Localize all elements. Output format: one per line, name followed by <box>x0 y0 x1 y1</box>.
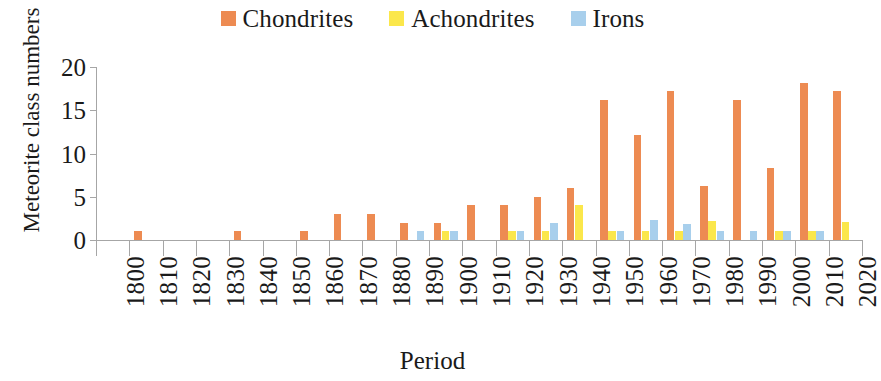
bar <box>833 91 841 240</box>
y-tick-label: 15 <box>61 98 86 123</box>
bar <box>775 231 783 240</box>
x-tick-label: 1890 <box>422 256 448 342</box>
bar-group <box>129 67 162 240</box>
x-tick-label: 1950 <box>622 256 648 342</box>
bar-group <box>429 67 462 240</box>
x-tick-label: 1960 <box>656 256 682 342</box>
bar-group <box>795 67 828 240</box>
bar <box>500 205 508 240</box>
x-tick-mark <box>329 240 330 256</box>
bar <box>450 231 458 240</box>
bar <box>575 205 583 240</box>
x-tick-mark <box>462 240 463 256</box>
bar <box>650 220 658 240</box>
x-tick-label: 2000 <box>789 256 815 342</box>
y-axis-title: Meteorite class numbers <box>20 0 44 250</box>
x-tick-label: 1810 <box>156 256 182 342</box>
bar <box>816 231 824 240</box>
bar <box>550 223 558 240</box>
x-tick-mark <box>596 240 597 256</box>
x-tick-mark <box>762 240 763 256</box>
bar-group <box>562 67 595 240</box>
bar-group <box>396 67 429 240</box>
bar <box>667 91 675 240</box>
y-tick-label: 10 <box>61 141 86 166</box>
legend-swatch-icon <box>571 11 586 26</box>
bar <box>800 83 808 240</box>
bar-group <box>762 67 795 240</box>
bar <box>683 224 691 240</box>
chart-legend: ChondritesAchondritesIrons <box>0 2 865 34</box>
x-tick-label: 1980 <box>722 256 748 342</box>
x-tick-label: 1940 <box>589 256 615 342</box>
bar-group <box>695 67 728 240</box>
bar-group <box>296 67 329 240</box>
bar <box>634 135 642 240</box>
x-tick-mark <box>496 240 497 256</box>
bar-group <box>196 67 229 240</box>
bar <box>642 231 650 240</box>
legend-label: Achondrites <box>411 6 534 31</box>
bar-group <box>629 67 662 240</box>
bar <box>617 231 625 240</box>
legend-label: Chondrites <box>243 6 354 31</box>
bar <box>442 231 450 240</box>
x-tick-label: 1800 <box>123 256 149 342</box>
bar <box>717 231 725 240</box>
bar <box>708 221 716 240</box>
bar-group <box>163 67 196 240</box>
x-tick-mark <box>795 240 796 256</box>
x-tick-mark <box>529 240 530 256</box>
x-tick-mark <box>429 240 430 256</box>
x-tick-mark <box>129 240 130 256</box>
bar-group <box>662 67 695 240</box>
x-tick-mark <box>629 240 630 256</box>
x-tick-label: 1910 <box>489 256 515 342</box>
bar <box>400 223 408 240</box>
x-tick-label: 1970 <box>689 256 715 342</box>
plot-area: 05101520 <box>96 67 862 241</box>
legend-entry: Irons <box>571 6 645 31</box>
legend-swatch-icon <box>389 11 404 26</box>
bar-group <box>496 67 529 240</box>
x-tick-mark <box>729 240 730 256</box>
bar-group <box>229 67 262 240</box>
x-tick-label: 1820 <box>189 256 215 342</box>
x-tick-mark <box>829 240 830 256</box>
bar-group <box>729 67 762 240</box>
x-tick-mark <box>229 240 230 256</box>
bar-group <box>96 67 129 240</box>
bar-group <box>529 67 562 240</box>
bar-series-container <box>96 67 862 241</box>
x-tick-label: 1900 <box>456 256 482 342</box>
bar <box>467 205 475 240</box>
legend-entry: Achondrites <box>389 6 534 31</box>
x-tick-mark <box>362 240 363 256</box>
x-tick-mark <box>562 240 563 256</box>
x-tick-label: 1990 <box>755 256 781 342</box>
x-tick-mark <box>263 240 264 256</box>
x-tick-mark <box>396 240 397 256</box>
bar-group <box>263 67 296 240</box>
bar <box>700 186 708 240</box>
x-tick-mark <box>695 240 696 256</box>
x-tick-mark <box>296 240 297 256</box>
bar <box>334 214 342 240</box>
bar-group <box>596 67 629 240</box>
bar <box>733 100 741 240</box>
x-tick-label: 1880 <box>389 256 415 342</box>
bar <box>567 188 575 240</box>
bar <box>842 222 850 240</box>
x-tick-label: 1830 <box>223 256 249 342</box>
x-tick-label: 1840 <box>256 256 282 342</box>
x-tick-mark <box>163 240 164 256</box>
x-tick-mark <box>196 240 197 256</box>
bar-group <box>462 67 495 240</box>
x-tick-mark <box>662 240 663 256</box>
y-tick-label: 20 <box>61 55 86 80</box>
x-tick-label: 2010 <box>822 256 848 342</box>
bar <box>600 100 608 240</box>
bar <box>783 231 791 240</box>
bar <box>508 231 516 240</box>
